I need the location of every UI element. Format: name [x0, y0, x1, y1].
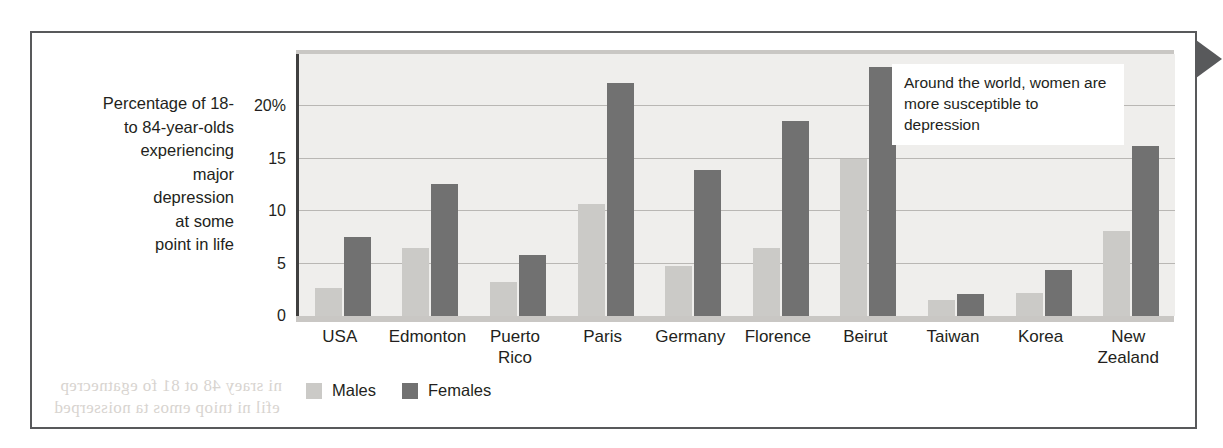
legend-item-females[interactable]: Females: [402, 381, 491, 400]
bar-females[interactable]: [344, 237, 371, 316]
legend-item-males[interactable]: Males: [306, 381, 376, 400]
bar-females[interactable]: [1045, 270, 1072, 316]
y-axis-title-line: to 84-year-olds: [38, 116, 234, 140]
bar-males[interactable]: [928, 300, 955, 316]
annotation-callout: Around the world, women are more suscept…: [892, 64, 1124, 145]
bar-females[interactable]: [957, 294, 984, 316]
y-axis-title-line: point in life: [38, 233, 234, 257]
y-axis-tick-label: 15: [236, 150, 286, 168]
legend-label-males: Males: [332, 381, 376, 400]
y-axis-title: Percentage of 18- to 84-year-olds experi…: [38, 92, 234, 257]
x-axis-label: USA: [296, 326, 384, 347]
y-axis-tick-label: 0: [236, 307, 286, 325]
x-axis-label: Germany: [646, 326, 734, 347]
bar-males[interactable]: [1103, 231, 1130, 316]
plot-bottom-edge: [296, 316, 1174, 322]
y-axis-title-line: experiencing: [38, 139, 234, 163]
x-axis-label: Edmonton: [384, 326, 472, 347]
y-axis-tick-label: 20%: [236, 97, 286, 115]
bar-females[interactable]: [607, 83, 634, 316]
bar-group: [474, 54, 562, 316]
bar-group: [562, 54, 650, 316]
bar-females[interactable]: [782, 121, 809, 316]
legend-swatch-females: [402, 383, 418, 399]
bar-females[interactable]: [694, 170, 721, 316]
x-axis-label: Korea: [997, 326, 1085, 347]
bar-males[interactable]: [1016, 293, 1043, 316]
x-axis-label: New Zealand: [1084, 326, 1172, 368]
bar-group: [649, 54, 737, 316]
bar-males[interactable]: [665, 266, 692, 316]
bar-females[interactable]: [1132, 146, 1159, 316]
y-axis-title-line: depression: [38, 186, 234, 210]
triangle-right-icon: [1196, 40, 1222, 78]
chart-legend: Males Females: [306, 381, 491, 400]
bar-group: [299, 54, 387, 316]
x-axis-label: Taiwan: [909, 326, 997, 347]
bar-males[interactable]: [315, 288, 342, 316]
bar-group: [387, 54, 475, 316]
y-axis-title-line: at some: [38, 210, 234, 234]
bar-group: [737, 54, 825, 316]
legend-swatch-males: [306, 383, 322, 399]
y-axis-title-line: Percentage of 18-: [38, 92, 234, 116]
x-axis-label: Paris: [559, 326, 647, 347]
bar-males[interactable]: [840, 159, 867, 316]
bar-females[interactable]: [431, 184, 458, 316]
bar-males[interactable]: [753, 248, 780, 316]
x-axis-label: Beirut: [822, 326, 910, 347]
bar-males[interactable]: [490, 282, 517, 316]
bar-females[interactable]: [519, 255, 546, 316]
y-axis-title-line: major: [38, 163, 234, 187]
y-axis-tick-label: 10: [236, 202, 286, 220]
bar-males[interactable]: [402, 248, 429, 316]
x-axis-label: Florence: [734, 326, 822, 347]
y-axis-tick-label: 5: [236, 255, 286, 273]
x-axis-labels: USAEdmontonPuerto RicoParisGermanyFloren…: [296, 326, 1174, 374]
x-axis-label: Puerto Rico: [471, 326, 559, 368]
bar-males[interactable]: [578, 204, 605, 316]
legend-label-females: Females: [428, 381, 491, 400]
